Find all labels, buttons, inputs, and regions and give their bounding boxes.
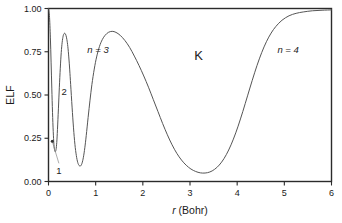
y-tick-label: 1.00 [24, 4, 42, 14]
y-tick-label: 0.50 [24, 90, 42, 100]
annotation-point-marker [51, 140, 54, 143]
chart-canvas: 0.000.250.500.751.00 0123456 12n = 3Kn =… [0, 0, 342, 223]
annotation-shell-2: 2 [61, 86, 66, 97]
curve-annotations: 12n = 3Kn = 4 [51, 44, 299, 175]
annotation-shell-3: n = 3 [87, 44, 109, 55]
y-axis-ticks: 0.000.250.500.751.00 [24, 4, 49, 187]
y-tick-label: 0.25 [24, 133, 42, 143]
x-tick-label: 1 [93, 188, 98, 198]
annotation-leader-line [52, 141, 59, 163]
annotation-shell-4: n = 4 [277, 44, 298, 55]
x-axis-title: r (Bohr) [172, 204, 208, 216]
x-tick-label: 2 [140, 188, 145, 198]
annotation-shell-1: 1 [56, 165, 61, 176]
y-axis-title: ELF [4, 85, 16, 104]
x-axis-ticks: 0123456 [46, 182, 334, 199]
annotation-shell-K: K [194, 48, 203, 63]
x-tick-label: 4 [235, 188, 240, 198]
x-tick-label: 5 [282, 188, 287, 198]
x-tick-label: 3 [187, 188, 192, 198]
y-tick-label: 0.75 [24, 47, 42, 57]
elf-radial-plot-figure: 0.000.250.500.751.00 0123456 12n = 3Kn =… [0, 0, 342, 223]
x-tick-label: 0 [46, 188, 51, 198]
x-tick-label: 6 [329, 188, 334, 198]
elf-curve [49, 9, 332, 174]
x-axis-title-unit: (Bohr) [176, 204, 208, 216]
y-tick-label: 0.00 [24, 177, 42, 187]
